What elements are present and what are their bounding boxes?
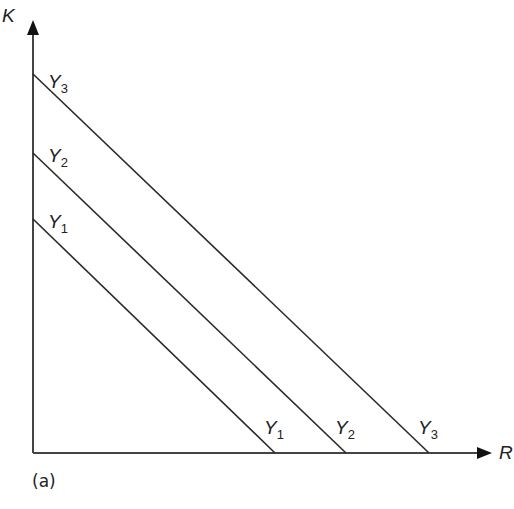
label-y1-top: Y1 (48, 212, 68, 235)
y-axis-label: K (2, 6, 15, 25)
label-y1-bottom: Y1 (264, 418, 284, 441)
isoquant-y1 (33, 219, 275, 453)
x-axis-label: R (499, 443, 513, 462)
label-y3-bottom: Y3 (418, 418, 438, 441)
x-axis-arrow-icon (477, 447, 492, 459)
y-axis-arrow-icon (27, 20, 39, 35)
label-y2-top: Y2 (48, 146, 68, 169)
label-y3-top: Y3 (48, 72, 68, 95)
isoquant-y3 (33, 74, 429, 453)
panel-label: (a) (32, 471, 56, 491)
isoquant-y2 (33, 153, 346, 453)
label-y2-bottom: Y2 (335, 418, 355, 441)
